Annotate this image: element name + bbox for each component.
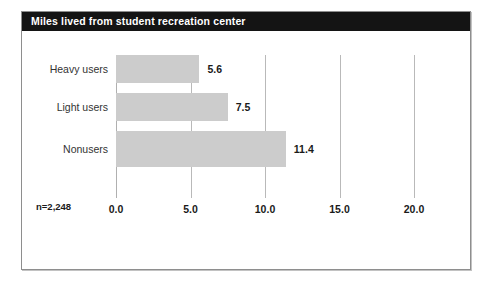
bar-light-users xyxy=(116,93,228,121)
bar-value-light-users: 7.5 xyxy=(236,101,251,113)
bar-row: Heavy users5.6 xyxy=(22,55,470,83)
bar-row: Light users7.5 xyxy=(22,93,470,121)
bar-nonusers xyxy=(116,131,286,167)
sample-size-label: n=2,248 xyxy=(36,201,71,212)
chart-title: Miles lived from student recreation cent… xyxy=(31,15,246,27)
bar-value-heavy-users: 5.6 xyxy=(207,63,222,75)
chart-card: Miles lived from student recreation cent… xyxy=(21,11,471,270)
bar-heavy-users xyxy=(116,55,199,83)
x-tick-5.0: 5.0 xyxy=(183,203,198,215)
bar-row: Nonusers11.4 xyxy=(22,131,470,167)
x-tick-0.0: 0.0 xyxy=(109,203,124,215)
category-label-heavy-users: Heavy users xyxy=(50,63,108,75)
bar-value-nonusers: 11.4 xyxy=(294,143,314,155)
x-tick-10.0: 10.0 xyxy=(255,203,275,215)
chart-plot-area: Heavy users5.6Light users7.5Nonusers11.4… xyxy=(22,31,470,269)
category-label-light-users: Light users xyxy=(57,101,108,113)
category-label-nonusers: Nonusers xyxy=(63,143,108,155)
chart-title-bar: Miles lived from student recreation cent… xyxy=(22,12,470,31)
x-tick-20.0: 20.0 xyxy=(404,203,424,215)
x-tick-15.0: 15.0 xyxy=(329,203,349,215)
